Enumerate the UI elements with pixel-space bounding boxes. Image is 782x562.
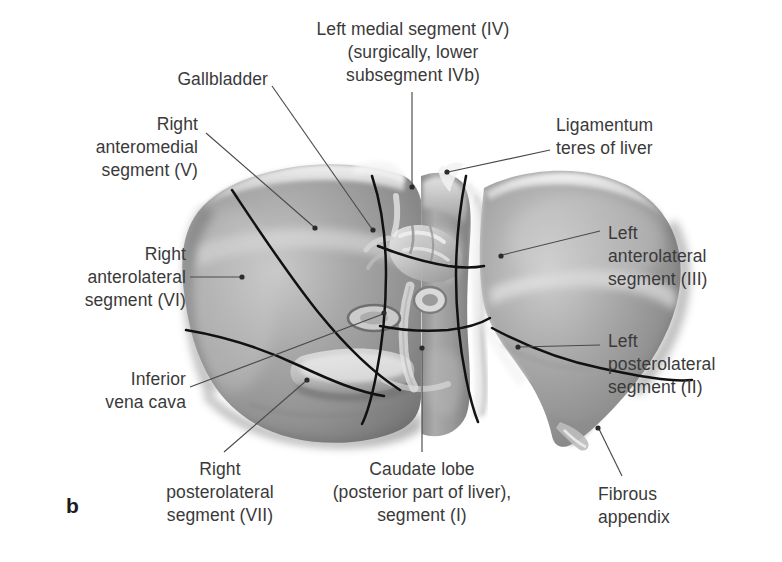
label-right-anterolateral-segment: Right anterolateral segment (VI) (18, 243, 186, 312)
label-ligamentum-teres: Ligamentum teres of liver (556, 114, 726, 160)
leader-left-medial-segment (409, 92, 414, 190)
left-lobe (470, 171, 690, 451)
label-left-anterolateral-segment: Left anterolateral segment (III) (608, 222, 768, 291)
label-caudate-lobe: Caudate lobe (posterior part of liver), … (312, 458, 532, 527)
label-right-anteromedial-segment: Right anteromedial segment (V) (30, 113, 198, 182)
figure-panel-letter: b (66, 494, 79, 518)
leader-fibrous-appendix (595, 425, 622, 476)
label-left-posterolateral-segment: Left posterolateral segment (II) (608, 330, 768, 399)
label-fibrous-appendix: Fibrous appendix (598, 483, 738, 529)
label-gallbladder: Gallbladder (118, 68, 268, 91)
label-right-posterolateral-segment: Right posterolateral segment (VII) (128, 458, 312, 527)
label-left-medial-segment: Left medial segment (IV) (surgically, lo… (298, 18, 528, 87)
label-inferior-vena-cava: Inferior vena cava (30, 368, 186, 414)
liver-segments-figure: Left medial segment (IV) (surgically, lo… (0, 0, 782, 562)
